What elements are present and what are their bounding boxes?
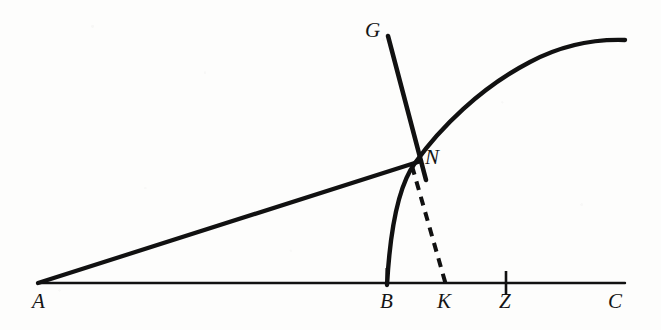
point-label-z: Z bbox=[499, 291, 511, 312]
geometry-figure: A B K Z C G N bbox=[0, 0, 661, 330]
point-label-b: B bbox=[380, 291, 393, 312]
point-label-g: G bbox=[365, 20, 380, 41]
point-label-k: K bbox=[437, 291, 451, 312]
dashed-segment-N-to-K bbox=[412, 166, 446, 285]
point-label-a: A bbox=[32, 291, 45, 312]
point-label-n: N bbox=[425, 147, 439, 168]
diagram-canvas bbox=[0, 0, 661, 330]
point-label-c: C bbox=[608, 291, 622, 312]
ray-A-to-N bbox=[38, 161, 421, 283]
